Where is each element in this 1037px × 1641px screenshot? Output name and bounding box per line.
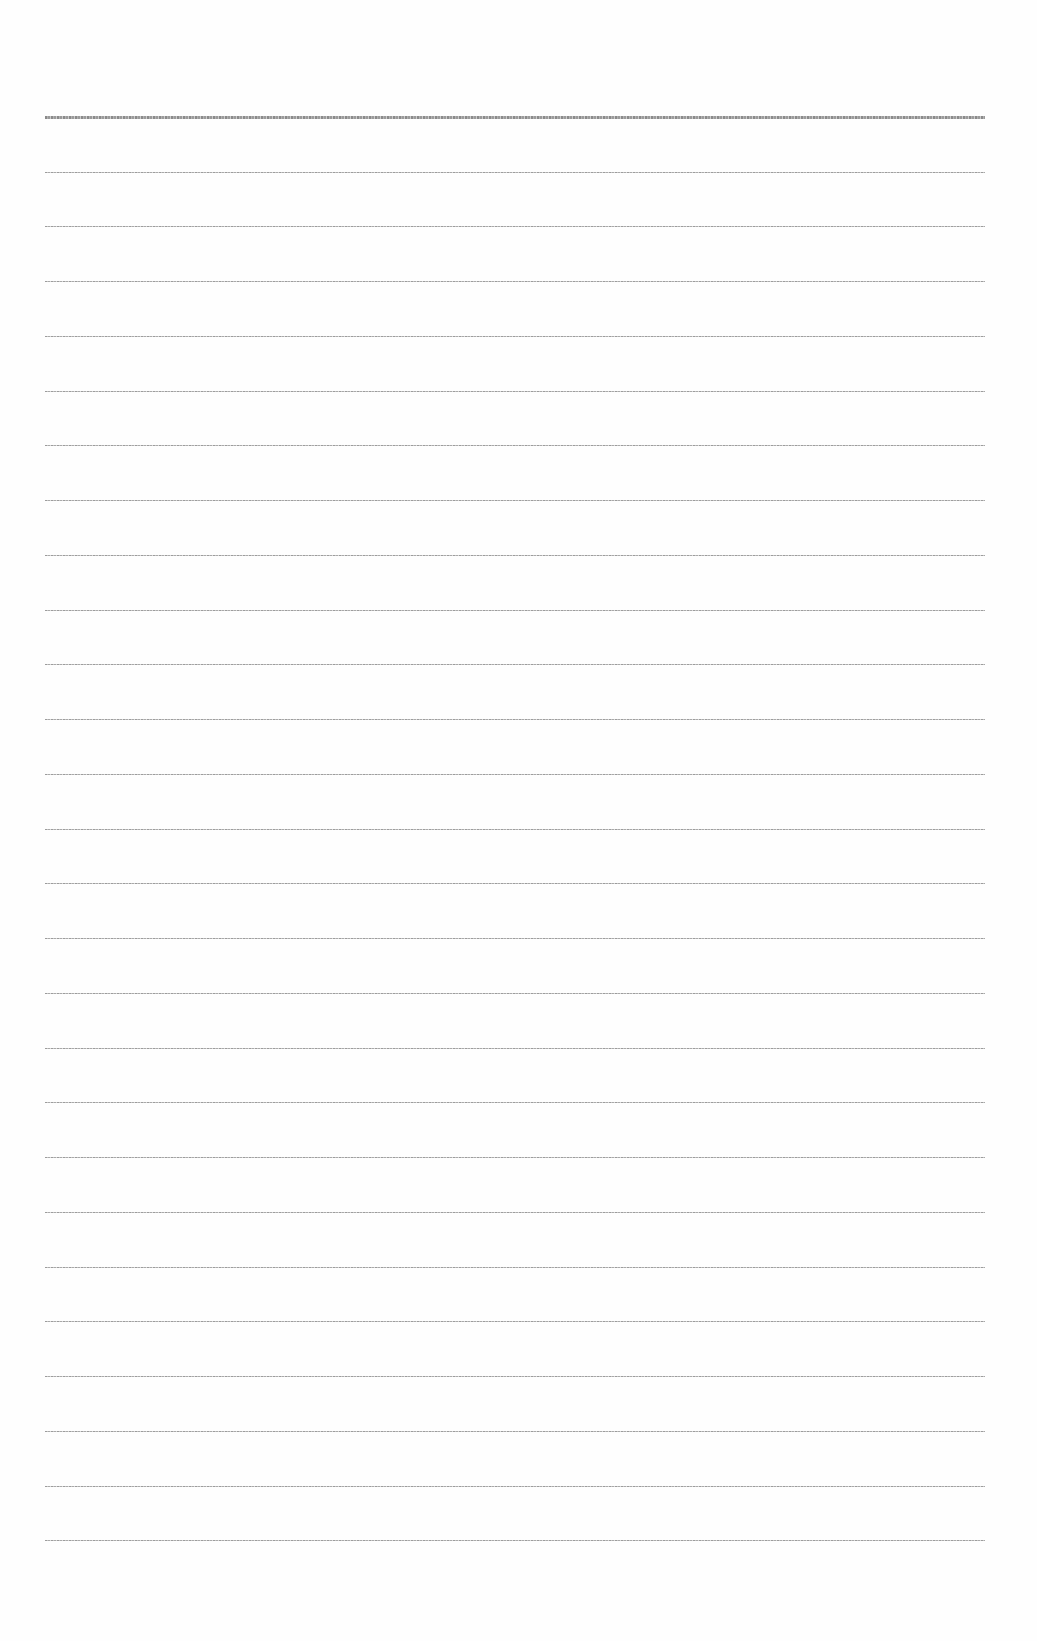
rule-line bbox=[45, 719, 985, 720]
rule-line bbox=[45, 829, 985, 830]
rule-line bbox=[45, 1431, 985, 1432]
rule-line bbox=[45, 938, 985, 939]
rule-line bbox=[45, 664, 985, 665]
rule-line bbox=[45, 1267, 985, 1268]
rule-line bbox=[45, 226, 985, 227]
rule-line bbox=[45, 1157, 985, 1158]
rule-line bbox=[45, 1102, 985, 1103]
rule-line bbox=[45, 1486, 985, 1487]
rule-line bbox=[45, 445, 985, 446]
rule-line bbox=[45, 883, 985, 884]
ruled-paper-page bbox=[0, 0, 1037, 1641]
rule-line bbox=[45, 555, 985, 556]
rule-line bbox=[45, 281, 985, 282]
rule-line bbox=[45, 172, 985, 173]
rule-line bbox=[45, 774, 985, 775]
rule-line bbox=[45, 1212, 985, 1213]
rule-line bbox=[45, 1321, 985, 1322]
rule-line bbox=[45, 336, 985, 337]
top-rule-line bbox=[45, 116, 985, 119]
rule-line bbox=[45, 1048, 985, 1049]
rule-line bbox=[45, 610, 985, 611]
rule-line bbox=[45, 993, 985, 994]
rule-line bbox=[45, 500, 985, 501]
rule-line bbox=[45, 1376, 985, 1377]
rule-line bbox=[45, 391, 985, 392]
rule-line bbox=[45, 1540, 985, 1541]
